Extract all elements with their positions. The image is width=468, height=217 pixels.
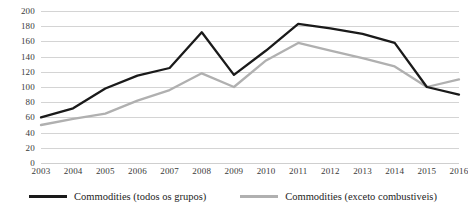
chart-legend: Commodities (todos os grupos)Commodities… (0, 191, 466, 202)
legend-item[interactable]: Commodities (todos os grupos) (29, 191, 206, 202)
x-axis-tick-label: 2005 (96, 166, 115, 176)
x-axis-tick-label: 2009 (225, 166, 244, 176)
x-axis-tick-label: 2010 (257, 166, 276, 176)
legend-label: Commodities (todos os grupos) (74, 191, 206, 202)
legend-swatch-icon (240, 195, 278, 198)
series-line (41, 43, 459, 125)
x-axis-tick-label: 2015 (417, 166, 436, 176)
y-axis-tick-label: 80 (26, 97, 35, 107)
x-axis-tick-label: 2003 (32, 166, 51, 176)
x-axis: 2003200420052006200720082009201020112012… (41, 166, 459, 184)
x-axis-tick-label: 2016 (450, 166, 468, 176)
y-axis-tick-label: 100 (21, 82, 35, 92)
y-axis-tick-label: 20 (26, 143, 35, 153)
y-axis: 020406080100120140160180200 (0, 0, 38, 174)
plot-area (41, 11, 459, 163)
x-axis-tick-label: 2006 (128, 166, 147, 176)
x-axis-tick-label: 2011 (289, 166, 307, 176)
x-axis-tick-label: 2007 (160, 166, 179, 176)
x-axis-tick-label: 2008 (192, 166, 211, 176)
y-axis-tick-label: 140 (21, 52, 35, 62)
series-layer (41, 11, 459, 163)
y-axis-tick-label: 120 (21, 67, 35, 77)
legend-item[interactable]: Commodities (exceto combustiveis) (240, 191, 437, 202)
y-axis-tick-label: 60 (26, 112, 35, 122)
legend-swatch-icon (29, 195, 67, 198)
x-axis-tick-label: 2012 (321, 166, 340, 176)
y-axis-tick-label: 180 (21, 21, 35, 31)
y-axis-tick-label: 160 (21, 36, 35, 46)
x-axis-tick-label: 2013 (353, 166, 372, 176)
y-axis-tick-label: 200 (21, 6, 35, 16)
x-axis-tick-label: 2004 (64, 166, 83, 176)
x-axis-tick-label: 2014 (385, 166, 404, 176)
y-axis-tick-label: 40 (26, 128, 35, 138)
gridline (41, 163, 459, 164)
legend-label: Commodities (exceto combustiveis) (285, 191, 437, 202)
series-line (41, 24, 459, 117)
